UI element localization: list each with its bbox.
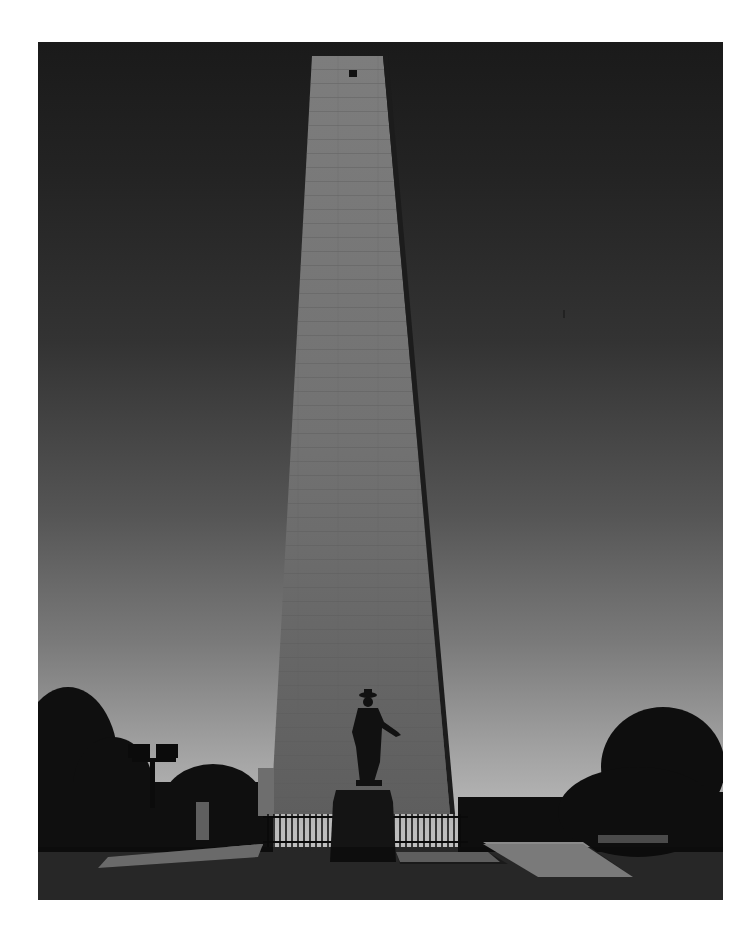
stone-post-left: [196, 802, 209, 840]
building-left: [258, 768, 274, 816]
photograph: [38, 42, 723, 900]
bird-speck: [563, 310, 565, 318]
obelisk: [271, 56, 455, 814]
bench: [598, 835, 668, 843]
trees-left: [38, 687, 273, 852]
scene: [38, 42, 723, 900]
trees-right: [458, 707, 723, 857]
obelisk-window: [349, 70, 357, 77]
